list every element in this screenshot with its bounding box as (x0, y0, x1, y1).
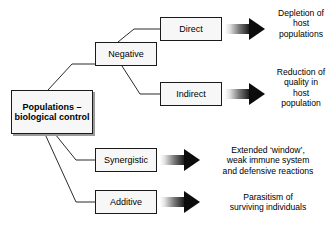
outcome-depletion: Depletion of host populations (267, 8, 335, 39)
diagram-canvas: Populations – biological control Negativ… (0, 0, 335, 228)
outcome-reduction-line-2: quality in (267, 77, 335, 87)
outcome-extended-window: Extended ‘window’, weak immune system an… (201, 145, 335, 176)
outcome-depletion-line-1: Depletion of (267, 8, 335, 18)
outcome-extended-window-line-1: Extended ‘window’, (201, 145, 335, 155)
outcome-depletion-line-2: host (267, 18, 335, 28)
edge-root-to-negative (48, 64, 95, 90)
outcome-reduction: Reduction of quality in host population (267, 67, 335, 108)
arrow-additive-to-parasitism (160, 191, 200, 213)
outcome-parasitism: Parasitism of surviving individuals (201, 192, 335, 213)
arrow-synergistic-to-extended-window (160, 149, 200, 171)
node-synergistic-label: Synergistic (104, 155, 148, 165)
edge-negative-to-direct (118, 29, 160, 42)
outcome-arrows (160, 18, 265, 213)
outcome-reduction-line-4: population (267, 98, 335, 108)
outcome-parasitism-line-2: surviving individuals (201, 202, 335, 212)
edge-negative-to-indirect (122, 66, 160, 94)
outcome-depletion-line-3: populations (267, 29, 335, 39)
outcome-extended-window-line-3: and defensive reactions (201, 166, 335, 176)
outcome-extended-window-line-2: weak immune system (201, 155, 335, 165)
outcome-parasitism-line-1: Parasitism of (201, 192, 335, 202)
node-indirect[interactable]: Indirect (160, 82, 222, 106)
outcome-reduction-line-1: Reduction of (267, 67, 335, 77)
node-direct-label: Direct (179, 24, 203, 34)
arrow-indirect-to-reduction (225, 83, 265, 105)
node-direct[interactable]: Direct (160, 17, 222, 41)
node-root-line-1: Populations – (22, 102, 81, 112)
outcome-reduction-line-3: host (267, 88, 335, 98)
node-indirect-label: Indirect (176, 89, 206, 99)
node-additive[interactable]: Additive (95, 190, 157, 214)
node-populations-biological-control[interactable]: Populations – biological control (11, 90, 93, 134)
edge-root-to-synergistic (55, 134, 95, 160)
node-root-line-3: control (59, 112, 90, 122)
node-synergistic[interactable]: Synergistic (95, 148, 157, 172)
node-root-line-2: biological (14, 112, 56, 122)
node-negative[interactable]: Negative (95, 42, 157, 66)
node-root-label: Populations – biological control (12, 102, 92, 122)
edge-root-to-additive (45, 134, 95, 202)
node-negative-label: Negative (108, 49, 144, 59)
arrow-direct-to-depletion (225, 18, 265, 40)
node-additive-label: Additive (110, 197, 142, 207)
